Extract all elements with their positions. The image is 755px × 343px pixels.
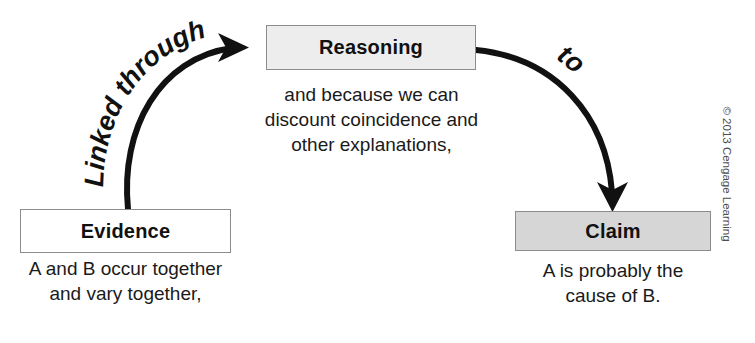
caption-evidence: A and B occur together and vary together… bbox=[2, 256, 249, 306]
caption-claim-line-1: A is probably the bbox=[500, 258, 726, 283]
connector-label-linked-through: Linked through bbox=[79, 14, 209, 188]
node-evidence-label: Evidence bbox=[81, 220, 170, 243]
caption-reasoning-line-1: and because we can bbox=[252, 82, 491, 107]
arrow-reasoning-to-claim bbox=[476, 50, 628, 212]
node-reasoning-label: Reasoning bbox=[319, 36, 423, 59]
caption-reasoning: and because we can discount coincidence … bbox=[252, 82, 491, 157]
caption-reasoning-line-3: other explanations, bbox=[252, 132, 491, 157]
diagram-canvas: Linked through to Evidence A and B occur… bbox=[0, 0, 755, 343]
node-claim: Claim bbox=[515, 211, 711, 251]
connector-label-to: to bbox=[552, 39, 591, 79]
caption-reasoning-line-2: discount coincidence and bbox=[252, 107, 491, 132]
caption-claim: A is probably the cause of B. bbox=[500, 258, 726, 308]
node-reasoning: Reasoning bbox=[266, 25, 476, 70]
caption-evidence-line-2: and vary together, bbox=[2, 281, 249, 306]
caption-evidence-line-1: A and B occur together bbox=[2, 256, 249, 281]
caption-claim-line-2: cause of B. bbox=[500, 283, 726, 308]
node-evidence: Evidence bbox=[20, 209, 231, 253]
copyright-credit: © 2013 Cengage Learning bbox=[721, 94, 733, 254]
node-claim-label: Claim bbox=[585, 220, 640, 243]
